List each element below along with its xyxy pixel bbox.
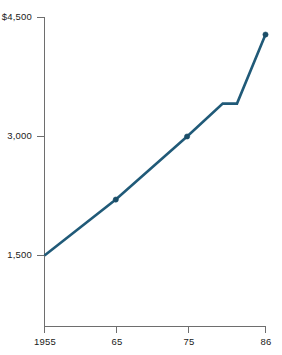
x-tick-label-65: 65 (97, 336, 137, 347)
data-point-marker (263, 32, 268, 37)
y-tick-label-4500: $4,500 (0, 11, 32, 22)
series-markers (113, 32, 268, 202)
data-point-marker (113, 197, 118, 202)
data-point-marker (184, 134, 189, 139)
x-tick-label-75: 75 (169, 336, 209, 347)
y-tick-label-1500: 1,500 (0, 249, 32, 260)
x-tick-label-1955: 1955 (25, 336, 65, 347)
y-tick-label-3000: 3,000 (0, 130, 32, 141)
x-tick-label-86: 86 (246, 336, 282, 347)
chart-plot-area (0, 0, 282, 355)
series-line-0 (45, 35, 266, 256)
line-chart: $4,500 3,000 1,500 1955 65 75 86 (0, 0, 282, 355)
